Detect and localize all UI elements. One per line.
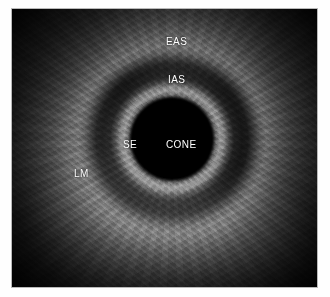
annotation-label-eas: EAS xyxy=(166,37,187,47)
annotation-label-ias: IAS xyxy=(168,75,185,85)
ultrasound-scan-plate: EAS IAS CONE SE LM xyxy=(11,8,318,288)
annotation-label-se: SE xyxy=(123,140,137,150)
annotation-label-cone: CONE xyxy=(166,140,197,150)
ultrasound-figure: EAS IAS CONE SE LM xyxy=(0,0,330,297)
annotation-label-lm: LM xyxy=(74,169,89,179)
